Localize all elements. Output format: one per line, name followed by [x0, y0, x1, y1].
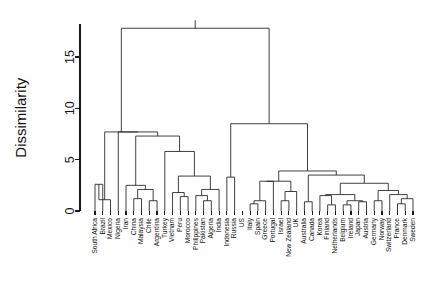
dendrogram-link	[118, 132, 157, 211]
dendrogram-figure: 051015DissimilaritySouth AfricaBrazilMex…	[0, 0, 423, 307]
leaf-label: Switzerland	[385, 218, 392, 252]
leaf-label: Peru	[176, 218, 183, 232]
dendrogram-link	[196, 196, 208, 211]
dendrogram-link	[231, 124, 308, 177]
dendrogram-link	[254, 201, 266, 211]
dendrogram-link	[260, 181, 274, 211]
dendrogram-link	[304, 202, 312, 211]
dendrogram-link	[374, 201, 382, 211]
y-axis: 051015Dissimilarity	[12, 24, 80, 214]
leaf-label: Morocco	[184, 218, 191, 244]
leaf-label: Russia	[230, 218, 237, 238]
dendrogram-link	[165, 151, 195, 211]
dendrogram-link	[121, 28, 269, 132]
dendrogram-link	[308, 175, 364, 202]
dendrogram-link	[149, 201, 157, 211]
leaf-label: Denmark	[401, 217, 408, 244]
leaf-label: Greece	[261, 218, 268, 240]
leaf-label: Canada	[308, 218, 315, 241]
dendrogram-plot: 051015DissimilaritySouth AfricaBrazilMex…	[0, 0, 423, 307]
dendrogram-link	[397, 204, 405, 211]
dendrogram-link	[180, 197, 188, 211]
dendrogram-link	[328, 205, 336, 211]
dendrogram-link	[390, 195, 407, 211]
dendrogram-link	[202, 189, 219, 211]
dendrogram-link	[227, 177, 235, 211]
dendrogram-link	[378, 190, 398, 200]
dendrogram-link	[343, 205, 351, 211]
leaf-label: Vietnam	[168, 218, 175, 243]
dendrogram-link	[340, 183, 388, 194]
leaf-label: Ireland	[347, 218, 354, 238]
dendrogram-link	[178, 176, 210, 192]
leaf-label: Korea	[316, 218, 323, 236]
dendrogram-tree	[95, 20, 413, 211]
leaf-label: Indonesia	[223, 218, 230, 247]
leaf-label: UK	[292, 217, 299, 227]
y-tick-label: 15	[63, 50, 77, 64]
dendrogram-link	[267, 181, 291, 191]
leaf-label: India	[215, 218, 222, 233]
leaf-label: Australia	[300, 218, 307, 244]
dendrogram-link	[359, 202, 367, 211]
leaf-label: Austria	[362, 218, 369, 239]
leaf-label: China	[130, 218, 137, 236]
dendrogram-link	[285, 191, 297, 211]
leaf-label: Netherlands	[331, 217, 338, 253]
dendrogram-link	[279, 171, 337, 181]
dendrogram-link	[250, 204, 258, 211]
y-axis-title: Dissimilarity	[12, 77, 29, 157]
y-tick-label: 10	[63, 101, 77, 115]
leaf-label: Finland	[323, 218, 330, 240]
dendrogram-link	[320, 196, 332, 211]
leaf-label: Mexico	[106, 218, 113, 239]
dendrogram-link	[204, 201, 212, 211]
leaf-label: France	[393, 218, 400, 239]
leaf-label: Sweden	[409, 218, 416, 242]
leaf-labels: South AfricaBrazilMexicoNigeriaIranChina…	[91, 211, 416, 257]
dendrogram-link	[105, 132, 138, 200]
leaf-label: South Africa	[91, 218, 98, 254]
dendrogram-link	[401, 199, 413, 211]
dendrogram-link	[281, 201, 289, 211]
dendrogram-link	[134, 199, 142, 211]
leaf-label: New Zealand	[285, 218, 292, 257]
leaf-label: Israel	[277, 217, 284, 234]
y-tick-label: 5	[63, 156, 77, 163]
y-tick-label: 0	[63, 207, 77, 214]
leaf-label: Iran	[122, 218, 129, 230]
dendrogram-link	[173, 193, 185, 211]
leaf-label: Brazil	[99, 217, 106, 234]
leaf-label: US	[238, 217, 245, 227]
dendrogram-link	[136, 136, 180, 185]
leaf-label: Chile	[145, 218, 152, 233]
leaf-label: Pakistan	[199, 218, 206, 244]
